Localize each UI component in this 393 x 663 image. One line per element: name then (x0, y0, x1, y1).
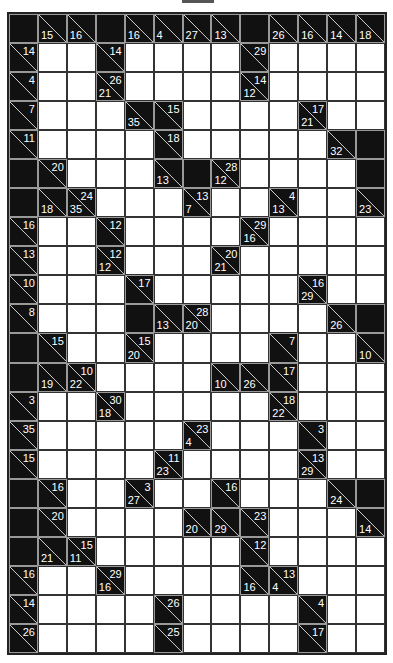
entry-cell[interactable] (211, 72, 240, 101)
entry-cell[interactable] (154, 188, 183, 217)
entry-cell[interactable] (356, 624, 385, 653)
entry-cell[interactable] (125, 537, 154, 566)
entry-cell[interactable] (154, 421, 183, 450)
entry-cell[interactable] (125, 624, 154, 653)
entry-cell[interactable] (356, 595, 385, 624)
entry-cell[interactable] (67, 450, 96, 479)
entry-cell[interactable] (327, 43, 356, 72)
entry-cell[interactable] (96, 537, 125, 566)
entry-cell[interactable] (269, 624, 298, 653)
entry-cell[interactable] (154, 392, 183, 421)
entry-cell[interactable] (240, 624, 269, 653)
entry-cell[interactable] (356, 363, 385, 392)
entry-cell[interactable] (356, 566, 385, 595)
entry-cell[interactable] (269, 159, 298, 188)
entry-cell[interactable] (125, 595, 154, 624)
entry-cell[interactable] (356, 421, 385, 450)
entry-cell[interactable] (183, 275, 212, 304)
entry-cell[interactable] (67, 217, 96, 246)
entry-cell[interactable] (327, 333, 356, 362)
entry-cell[interactable] (183, 595, 212, 624)
entry-cell[interactable] (125, 246, 154, 275)
entry-cell[interactable] (38, 72, 67, 101)
entry-cell[interactable] (356, 72, 385, 101)
entry-cell[interactable] (211, 450, 240, 479)
entry-cell[interactable] (67, 101, 96, 130)
entry-cell[interactable] (67, 275, 96, 304)
entry-cell[interactable] (298, 566, 327, 595)
entry-cell[interactable] (269, 217, 298, 246)
entry-cell[interactable] (240, 130, 269, 159)
entry-cell[interactable] (298, 217, 327, 246)
entry-cell[interactable] (356, 450, 385, 479)
entry-cell[interactable] (211, 333, 240, 362)
entry-cell[interactable] (240, 188, 269, 217)
entry-cell[interactable] (96, 333, 125, 362)
entry-cell[interactable] (183, 130, 212, 159)
entry-cell[interactable] (211, 101, 240, 130)
entry-cell[interactable] (327, 217, 356, 246)
entry-cell[interactable] (269, 72, 298, 101)
entry-cell[interactable] (154, 479, 183, 508)
entry-cell[interactable] (211, 537, 240, 566)
entry-cell[interactable] (67, 246, 96, 275)
entry-cell[interactable] (38, 275, 67, 304)
entry-cell[interactable] (183, 333, 212, 362)
entry-cell[interactable] (240, 421, 269, 450)
entry-cell[interactable] (38, 304, 67, 333)
entry-cell[interactable] (96, 624, 125, 653)
entry-cell[interactable] (269, 304, 298, 333)
entry-cell[interactable] (240, 595, 269, 624)
entry-cell[interactable] (154, 508, 183, 537)
entry-cell[interactable] (298, 479, 327, 508)
entry-cell[interactable] (298, 43, 327, 72)
entry-cell[interactable] (38, 246, 67, 275)
entry-cell[interactable] (327, 159, 356, 188)
entry-cell[interactable] (183, 450, 212, 479)
entry-cell[interactable] (125, 217, 154, 246)
entry-cell[interactable] (183, 363, 212, 392)
entry-cell[interactable] (154, 217, 183, 246)
entry-cell[interactable] (183, 101, 212, 130)
entry-cell[interactable] (67, 72, 96, 101)
entry-cell[interactable] (240, 479, 269, 508)
entry-cell[interactable] (154, 333, 183, 362)
entry-cell[interactable] (327, 624, 356, 653)
entry-cell[interactable] (38, 392, 67, 421)
entry-cell[interactable] (211, 595, 240, 624)
entry-cell[interactable] (96, 101, 125, 130)
entry-cell[interactable] (327, 392, 356, 421)
entry-cell[interactable] (240, 275, 269, 304)
entry-cell[interactable] (298, 333, 327, 362)
entry-cell[interactable] (67, 595, 96, 624)
entry-cell[interactable] (183, 217, 212, 246)
entry-cell[interactable] (269, 275, 298, 304)
entry-cell[interactable] (240, 450, 269, 479)
entry-cell[interactable] (327, 188, 356, 217)
entry-cell[interactable] (67, 43, 96, 72)
entry-cell[interactable] (183, 479, 212, 508)
entry-cell[interactable] (211, 188, 240, 217)
entry-cell[interactable] (38, 624, 67, 653)
entry-cell[interactable] (96, 450, 125, 479)
entry-cell[interactable] (269, 246, 298, 275)
entry-cell[interactable] (125, 450, 154, 479)
entry-cell[interactable] (298, 304, 327, 333)
entry-cell[interactable] (38, 130, 67, 159)
entry-cell[interactable] (125, 392, 154, 421)
entry-cell[interactable] (298, 537, 327, 566)
entry-cell[interactable] (38, 43, 67, 72)
entry-cell[interactable] (327, 537, 356, 566)
entry-cell[interactable] (183, 624, 212, 653)
entry-cell[interactable] (327, 246, 356, 275)
entry-cell[interactable] (298, 363, 327, 392)
entry-cell[interactable] (269, 43, 298, 72)
entry-cell[interactable] (211, 130, 240, 159)
entry-cell[interactable] (356, 537, 385, 566)
entry-cell[interactable] (327, 72, 356, 101)
entry-cell[interactable] (125, 363, 154, 392)
entry-cell[interactable] (240, 304, 269, 333)
entry-cell[interactable] (211, 43, 240, 72)
entry-cell[interactable] (154, 72, 183, 101)
entry-cell[interactable] (67, 624, 96, 653)
